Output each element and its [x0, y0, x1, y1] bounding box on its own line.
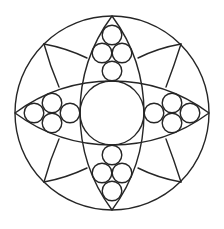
mandala-diagram — [0, 0, 224, 229]
spoke-bottom-left-to-vertical-lens — [44, 168, 87, 182]
small-circle-bottom-2 — [92, 163, 112, 183]
small-circle-top-4 — [102, 61, 122, 81]
small-circle-left-2 — [42, 93, 62, 113]
small-circle-bottom-1 — [102, 181, 122, 201]
spoke-bottom-right-to-vertical-lens — [138, 168, 181, 182]
small-circle-top-2 — [92, 43, 112, 63]
small-circle-left-1 — [24, 103, 44, 123]
spoke-bottom-right-to-horizontal-lens — [166, 139, 181, 182]
small-circle-left-4 — [60, 103, 80, 123]
small-circle-right-1 — [180, 103, 200, 123]
spoke-top-left-to-horizontal-lens — [44, 44, 59, 87]
small-circle-right-2 — [162, 93, 182, 113]
small-circle-right-3 — [162, 113, 182, 133]
spoke-bottom-left-to-horizontal-lens — [44, 139, 59, 182]
spoke-top-right-to-horizontal-lens — [166, 44, 181, 87]
spoke-top-right-to-vertical-lens — [138, 44, 181, 58]
small-circle-bottom-4 — [102, 145, 122, 165]
spoke-top-left-to-vertical-lens — [44, 44, 87, 58]
small-circle-left-3 — [42, 113, 62, 133]
small-circle-top-1 — [102, 25, 122, 45]
small-circle-right-4 — [144, 103, 164, 123]
small-circle-bottom-3 — [112, 163, 132, 183]
small-circle-top-3 — [112, 43, 132, 63]
center-circle — [80, 81, 144, 145]
